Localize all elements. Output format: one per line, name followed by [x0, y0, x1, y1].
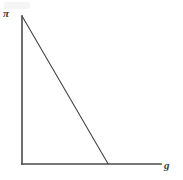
- chart-plot-area: [0, 0, 183, 180]
- x-axis-label: g: [164, 160, 170, 171]
- y-axis-label: π: [3, 8, 9, 19]
- data-line-profit-growth: [22, 16, 108, 164]
- chart-figure: π g: [0, 0, 183, 180]
